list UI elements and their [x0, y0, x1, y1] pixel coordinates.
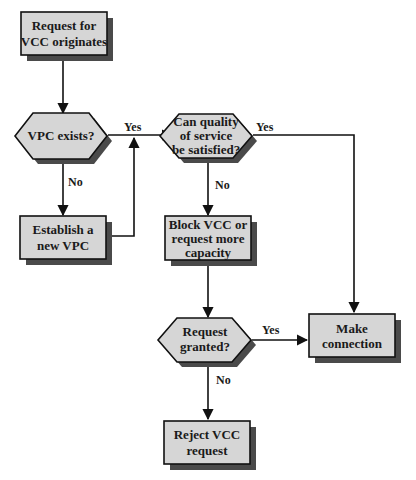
node-reject-vcc: Reject VCC request — [164, 421, 256, 470]
node-label-line: Block VCC or — [169, 217, 248, 232]
edge-label-vpc-no: No — [68, 175, 83, 189]
node-label-line: request more — [172, 231, 245, 246]
edge-label-granted-no: No — [216, 373, 231, 387]
node-qos-satisfied: Can quality of service be satisfied? — [160, 114, 257, 163]
node-label-line: request — [187, 443, 229, 458]
node-establish-vpc: Establish a new VPC — [20, 216, 112, 265]
edge-label-granted-yes: Yes — [262, 323, 280, 337]
node-label-line: Make — [336, 321, 368, 336]
node-label-line: new VPC — [37, 238, 89, 253]
node-label-line: Request — [183, 324, 228, 339]
edge-label-qos-no: No — [215, 178, 230, 192]
node-label-line: Establish a — [32, 222, 94, 237]
edge-establish-loop — [106, 138, 134, 236]
node-make-connection: Make connection — [309, 314, 401, 363]
node-label-line: capacity — [185, 245, 232, 260]
vcc-establishment-flowchart: Yes No Yes No Yes No Request for VCC ori… — [0, 0, 416, 480]
edge-label-qos-yes: Yes — [256, 120, 274, 134]
node-block-vcc: Block VCC or request more capacity — [165, 216, 257, 266]
node-label-line: Can quality — [173, 114, 239, 129]
node-vpc-exists: VPC exists? — [15, 113, 112, 164]
node-label-line: be satisfied? — [172, 142, 240, 157]
node-label-line: of service — [180, 128, 233, 143]
node-request-granted: Request granted? — [158, 318, 256, 367]
node-label-line: Reject VCC — [174, 427, 241, 442]
node-label-line: Request for — [32, 18, 97, 33]
node-request-originates: Request for VCC originates — [21, 12, 113, 61]
edge-label-vpc-yes: Yes — [124, 120, 142, 134]
node-label-line: connection — [322, 336, 383, 351]
node-label-line: granted? — [180, 339, 230, 354]
edge-qos-yes — [253, 135, 354, 312]
node-label-line: VPC exists? — [28, 128, 95, 143]
node-label-line: VCC originates — [21, 34, 107, 49]
